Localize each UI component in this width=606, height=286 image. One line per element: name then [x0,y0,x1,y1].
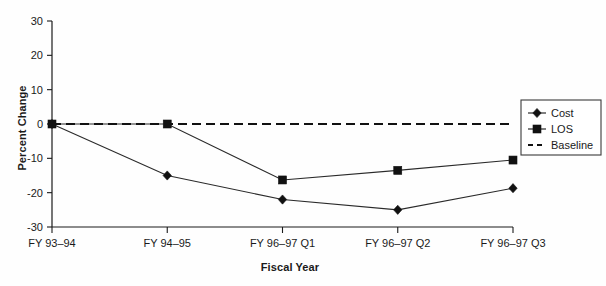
data-point-square [509,156,517,164]
y-axis-tick-label: 0 [37,118,43,130]
data-series-group [48,119,517,214]
series-markers-los [48,120,517,184]
y-axis-tick-label: -20 [27,187,43,199]
plot-area: 3020100-10-20-30 FY 93–94FY 94–95FY 96–9… [0,0,606,286]
series-line-los [52,124,513,180]
x-axis-tick-label: FY 96–97 Q3 [480,237,545,249]
x-axis-tick-label: FY 94–95 [143,237,191,249]
legend-label: Baseline [551,139,593,151]
x-axis: FY 93–94FY 94–95FY 96–97 Q1FY 96–97 Q2FY… [28,227,545,249]
y-axis-tick-label: 20 [31,49,43,61]
x-axis-tick-label: FY 96–97 Q1 [250,237,315,249]
legend-label: Cost [551,107,574,119]
y-axis-tick-label: 10 [31,84,43,96]
data-point-square [533,125,541,133]
x-axis-tick-label: FY 93–94 [28,237,76,249]
data-point-diamond [163,171,171,180]
data-point-diamond [394,205,402,214]
y-axis-tick-label: 30 [31,15,43,27]
y-axis-tick-label: -10 [27,152,43,164]
legend-label: LOS [551,123,573,135]
y-axis-tick-label: -30 [27,221,43,233]
data-point-diamond [509,184,517,193]
data-point-square [48,120,56,128]
legend-item-los[interactable]: LOS [528,123,573,135]
data-point-square [163,120,171,128]
x-axis-tick-label: FY 96–97 Q2 [365,237,430,249]
chart-container: Percent Change Fiscal Year 3020100-10-20… [0,0,606,286]
data-point-square [394,166,402,174]
data-point-diamond [278,195,286,204]
data-point-square [279,176,287,184]
chart-legend: CostLOSBaseline [521,100,601,155]
